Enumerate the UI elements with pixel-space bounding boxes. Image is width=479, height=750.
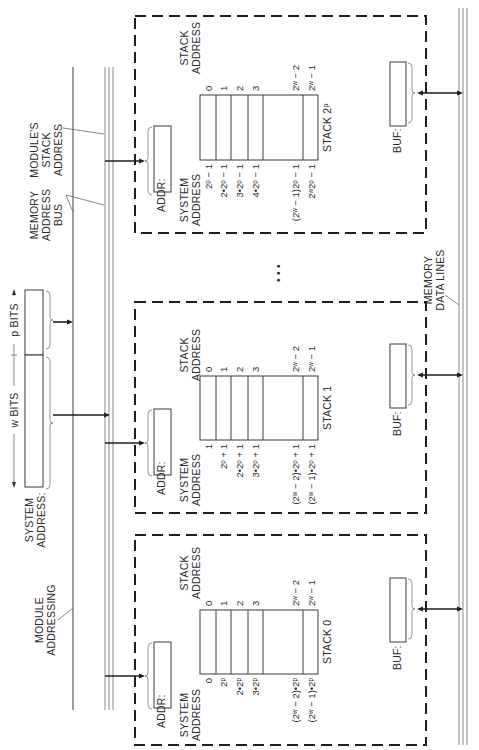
svg-text:1: 1 (218, 86, 229, 91)
svg-text:0: 0 (203, 86, 214, 91)
svg-text:MEMORY: MEMORY (28, 191, 40, 239)
svg-text:(2ʷ − 2)•2ᵖ + 1: (2ʷ − 2)•2ᵖ + 1 (290, 444, 301, 505)
leader-memory-address-bus-a (66, 195, 104, 205)
svg-text:ADDRESS: ADDRESS (190, 22, 202, 74)
svg-text:ADDRESSING: ADDRESSING (45, 584, 57, 655)
svg-text:STACK: STACK (40, 132, 52, 167)
svg-text:3•2ᵖ + 1: 3•2ᵖ + 1 (250, 444, 261, 478)
svg-text:0: 0 (203, 601, 214, 606)
buf-label: BUF: (391, 411, 403, 436)
memory-data-lines (459, 8, 467, 745)
stack-array (200, 95, 318, 160)
svg-text:2ᵖ + 1: 2ᵖ + 1 (218, 444, 229, 469)
svg-text:ADDRESS: ADDRESS (190, 329, 202, 381)
svg-text:1: 1 (218, 367, 229, 372)
module-stack-2p: ADDR: STACK ADDRESS SYSTEM ADDRESS 0 1 2… (105, 16, 463, 233)
svg-text:2ᵖ − 1: 2ᵖ − 1 (203, 164, 214, 189)
svg-text:2: 2 (234, 367, 245, 372)
svg-text:ADDRESS: ADDRESS (52, 124, 64, 176)
svg-text:2•2ᵖ + 1: 2•2ᵖ + 1 (234, 444, 245, 478)
svg-text:2ʷ − 2: 2ʷ − 2 (290, 346, 301, 372)
svg-text:2•2ᵖ: 2•2ᵖ (234, 678, 245, 696)
addr-label: ADDR: (155, 694, 167, 728)
w-bits-label: w BITS (8, 392, 20, 428)
svg-text:STACK: STACK (178, 30, 190, 65)
svg-text:2ʷ − 1: 2ʷ − 1 (306, 346, 317, 372)
svg-text:3: 3 (250, 367, 261, 372)
buf-label: BUF: (391, 128, 403, 153)
leader-modules-stack-address (63, 128, 104, 134)
svg-text:2ᵖ: 2ᵖ (218, 678, 229, 687)
p-bits-brace (46, 291, 53, 349)
svg-text:2ʷ2ᵖ − 1: 2ʷ2ᵖ − 1 (306, 164, 317, 199)
stack-name: STACK 1 (321, 386, 333, 430)
svg-text:SYSTEM: SYSTEM (178, 693, 190, 737)
w-bits-field (25, 355, 43, 487)
svg-text:3•2ᵖ − 1: 3•2ᵖ − 1 (234, 164, 245, 198)
module-stack-0: ADDR: STACK ADDRESS SYSTEM ADDRESS 0 1 2… (105, 535, 463, 745)
memory-address-bus (105, 67, 113, 710)
svg-text:SYSTEM: SYSTEM (23, 498, 35, 542)
svg-text:ADDRESS: ADDRESS (40, 189, 52, 241)
svg-text:BUS: BUS (52, 204, 64, 226)
buf-register (390, 578, 406, 642)
leader-memory-data-lines (445, 295, 459, 305)
memory-address-bus-label: MEMORY ADDRESS BUS (28, 189, 64, 241)
system-address-label: SYSTEM ADDRESS: (23, 492, 47, 547)
svg-text:ADDRESS: ADDRESS (190, 547, 202, 599)
svg-text:STACK: STACK (178, 555, 190, 590)
svg-text:ADDRESS:: ADDRESS: (35, 492, 47, 547)
svg-text:(2ʷ − 1)2ᵖ − 1: (2ʷ − 1)2ᵖ − 1 (290, 164, 301, 221)
buf-label: BUF: (391, 645, 403, 670)
svg-text:2•2ᵖ − 1: 2•2ᵖ − 1 (218, 164, 229, 198)
svg-text:3•2ᵖ: 3•2ᵖ (250, 678, 261, 696)
svg-text:2ʷ − 1: 2ʷ − 1 (306, 580, 317, 606)
modules-stack-address-label: MODULE'S STACK ADDRESS (28, 122, 64, 178)
svg-text:2ʷ − 2: 2ʷ − 2 (290, 65, 301, 91)
svg-text:1: 1 (218, 601, 229, 606)
svg-text:ADDRESS: ADDRESS (190, 174, 202, 226)
stack-array (200, 610, 318, 674)
stack-array (200, 376, 318, 440)
svg-text:(2ʷ − 1)•2ᵖ + 1: (2ʷ − 1)•2ᵖ + 1 (306, 444, 317, 505)
module-stack-1: ADDR: STACK ADDRESS SYSTEM ADDRESS 0 1 2… (105, 302, 463, 513)
svg-text:ADDRESS: ADDRESS (190, 454, 202, 506)
p-bits-field (25, 290, 43, 355)
p-bits-label: p BITS (8, 303, 20, 336)
svg-text:1: 1 (203, 444, 214, 449)
svg-text:MODULE: MODULE (33, 597, 45, 643)
buf-register (390, 62, 406, 126)
svg-text:(2ʷ − 1)•2ᵖ: (2ʷ − 1)•2ᵖ (306, 678, 317, 723)
svg-text:0: 0 (203, 367, 214, 372)
buf-register (390, 344, 406, 408)
svg-text:3: 3 (250, 86, 261, 91)
memory-module-diagram: MODULE'S STACK ADDRESS MEMORY ADDRESS BU… (0, 0, 479, 750)
svg-text:2ʷ − 2: 2ʷ − 2 (290, 580, 301, 606)
svg-text:ADDRESS: ADDRESS (190, 689, 202, 741)
addr-label: ADDR: (155, 461, 167, 495)
leader-module-addressing (58, 608, 73, 620)
svg-text:(2ʷ − 2)•2ᵖ: (2ʷ − 2)•2ᵖ (290, 678, 301, 723)
svg-text:3: 3 (250, 601, 261, 606)
addr-label: ADDR: (155, 178, 167, 212)
stack-name: STACK 2ᵖ (321, 103, 333, 152)
svg-text:2ʷ − 1: 2ʷ − 1 (306, 65, 317, 91)
stack-name: STACK 0 (321, 620, 333, 664)
svg-text:DATA LINES: DATA LINES (434, 249, 446, 310)
svg-text:STACK: STACK (178, 337, 190, 372)
svg-text:MEMORY: MEMORY (422, 256, 434, 304)
leader-memory-address-bus-b (66, 195, 73, 212)
svg-text:4•2ᵖ − 1: 4•2ᵖ − 1 (250, 164, 261, 198)
ellipsis: • • • (272, 264, 284, 282)
module-addressing-label: MODULE ADDRESSING (33, 584, 57, 655)
svg-text:2: 2 (234, 601, 245, 606)
svg-text:2: 2 (234, 86, 245, 91)
svg-text:MODULE'S: MODULE'S (28, 122, 40, 178)
svg-text:SYSTEM: SYSTEM (178, 458, 190, 502)
svg-text:SYSTEM: SYSTEM (178, 178, 190, 222)
w-bits-brace (46, 357, 53, 489)
svg-text:0: 0 (203, 678, 214, 683)
